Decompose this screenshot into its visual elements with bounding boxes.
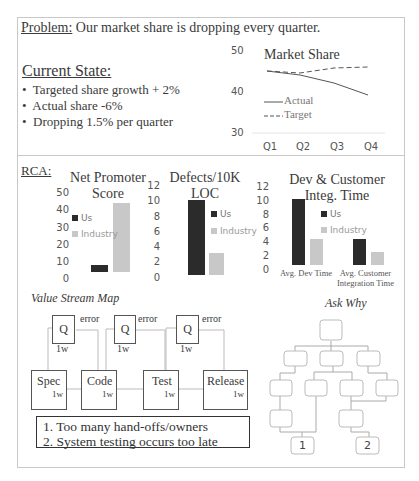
root-node <box>320 320 342 340</box>
ask-why-tree <box>0 0 419 481</box>
root-cause-1: 1 <box>291 439 314 452</box>
root-cause-2: 2 <box>356 439 379 452</box>
